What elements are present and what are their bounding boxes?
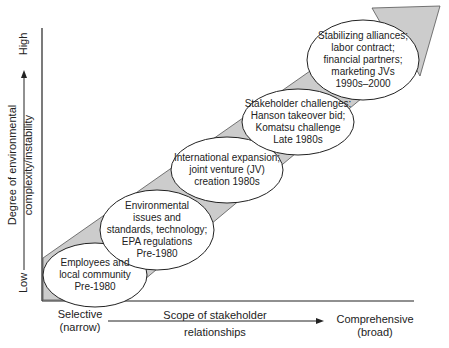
x-axis-left-label: Selective (narrow) (45, 308, 115, 334)
x-axis-title-line2: relationships (150, 325, 280, 339)
x-axis-right-label: Comprehensive (broad) (325, 313, 425, 339)
stage-5-line: Stabilizing alliances; (318, 30, 408, 42)
stage-2-line: EPA regulations (107, 236, 208, 248)
stage-4-text: Stakeholder challenges: Hanson takeover … (245, 98, 352, 146)
stage-2-line: issues and (107, 212, 208, 224)
stage-5-line: 1990s–2000 (318, 78, 408, 90)
stage-5-line: labor contract; (318, 42, 408, 54)
stage-3-text: International expansion; joint venture (… (174, 152, 280, 188)
x-axis-right-line2: (broad) (325, 326, 425, 339)
x-arrow-head-icon (316, 318, 324, 324)
stage-4-line: Late 1980s (245, 134, 352, 146)
stage-1-line: Pre-1980 (59, 281, 131, 293)
y-arrow-head-icon (21, 70, 27, 78)
stage-1-line: local community (59, 269, 131, 281)
stage-4-line: Komatsu challenge (245, 122, 352, 134)
stage-2-line: Pre-1980 (107, 248, 208, 260)
stage-2-text: Environmental issues and standards, tech… (107, 200, 208, 260)
stage-3-line: International expansion; (174, 152, 280, 164)
stage-5-line: marketing JVs (318, 66, 408, 78)
x-axis-title: Scope of stakeholder relationships (150, 308, 280, 339)
x-axis-right-line1: Comprehensive (325, 313, 425, 326)
stage-4-line: Stakeholder challenges: (245, 98, 352, 110)
x-axis-left-line1: Selective (45, 308, 115, 321)
x-axis-title-line1: Scope of stakeholder (150, 308, 280, 322)
stage-3-line: joint venture (JV) (174, 164, 280, 176)
stage-5-line: financial partners; (318, 54, 408, 66)
y-axis-title-line2: complexity/instability (20, 105, 36, 225)
stage-1-text: Employees and local community Pre-1980 (59, 257, 131, 293)
stage-2-line: standards, technology; (107, 224, 208, 236)
stage-3-line: creation 1980s (174, 176, 280, 188)
y-axis-low-label: Low (17, 273, 30, 293)
stage-5-text: Stabilizing alliances; labor contract; f… (318, 30, 408, 90)
stage-4-line: Hanson takeover bid; (245, 110, 352, 122)
x-axis-left-line2: (narrow) (45, 321, 115, 334)
stage-2-line: Environmental (107, 200, 208, 212)
y-axis-title-line1: Degree of environmental (4, 105, 20, 225)
y-axis-high-label: High (17, 33, 30, 56)
y-axis-title: Degree of environmental complexity/insta… (4, 105, 36, 225)
